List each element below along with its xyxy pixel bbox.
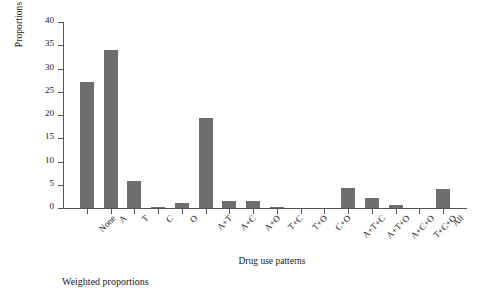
x-axis-line	[63, 208, 467, 209]
y-axis-title: Proportions (%)	[14, 0, 30, 76]
y-axis-tick: 40	[58, 22, 63, 23]
x-axis-tick-label: O	[188, 213, 200, 225]
bar	[127, 181, 141, 208]
y-axis-tick: 35	[58, 45, 63, 46]
y-axis-tick: 10	[58, 162, 63, 163]
bar	[436, 189, 450, 208]
x-axis-tick-label: A+T+O	[384, 213, 411, 240]
x-axis-tick-label: A+O	[262, 213, 282, 233]
y-axis-tick-label: 30	[45, 62, 54, 72]
x-axis-tick-labels: NoneATCOA+TA+CA+OT+CT+OC+OA+T+CA+T+OA+C+…	[63, 213, 467, 253]
x-axis-tick-label: C+O	[334, 213, 354, 233]
y-axis-tick-label: 20	[45, 108, 54, 118]
bar	[104, 50, 118, 208]
y-axis-tick: 0	[58, 208, 63, 209]
bar	[270, 207, 284, 208]
chart-figure: Proportions (%) 0510152025303540 NoneATC…	[0, 0, 486, 300]
y-axis-tick: 25	[58, 92, 63, 93]
bar	[365, 198, 379, 208]
bar	[80, 82, 94, 208]
bar	[222, 201, 236, 208]
plot-area: 0510152025303540	[63, 22, 467, 209]
y-axis-tick: 5	[58, 185, 63, 186]
x-axis-tick-label: A+C	[238, 213, 258, 233]
bar	[199, 118, 213, 208]
y-axis-tick-label: 15	[45, 131, 54, 141]
x-axis-tick-label: A+T+C	[360, 213, 387, 240]
y-axis-tick-label: 5	[50, 178, 55, 188]
bar	[246, 201, 260, 208]
bar	[341, 188, 355, 208]
y-axis-tick: 15	[58, 138, 63, 139]
x-axis-tick-label: C	[164, 213, 175, 224]
y-axis-tick: 30	[58, 69, 63, 70]
x-axis-title-text: Drug use patterns	[180, 256, 305, 266]
x-axis-tick-label: T	[140, 213, 151, 224]
y-axis-tick-label: 0	[50, 201, 55, 211]
x-axis-tick-label: A+T	[215, 213, 234, 232]
bar	[175, 203, 189, 208]
x-axis-tick-label: A	[116, 213, 128, 225]
x-axis-tick-label: T+C	[286, 213, 305, 232]
figure-caption: Weighted proportions	[62, 276, 149, 287]
x-axis-title: Drug use patterns	[0, 256, 486, 266]
y-axis-tick: 20	[58, 115, 63, 116]
y-axis-tick-label: 10	[45, 155, 54, 165]
y-axis-tick-label: 40	[45, 15, 54, 25]
y-axis-tick-label: 25	[45, 85, 54, 95]
y-axis-line	[63, 22, 64, 209]
bar	[389, 205, 403, 208]
x-axis-tick-label: A+C+O	[408, 213, 436, 241]
bar	[151, 207, 165, 208]
x-axis-tick-label: None	[96, 213, 117, 234]
x-axis-tick-label: T+O	[310, 213, 329, 232]
y-axis-tick-label: 35	[45, 38, 54, 48]
